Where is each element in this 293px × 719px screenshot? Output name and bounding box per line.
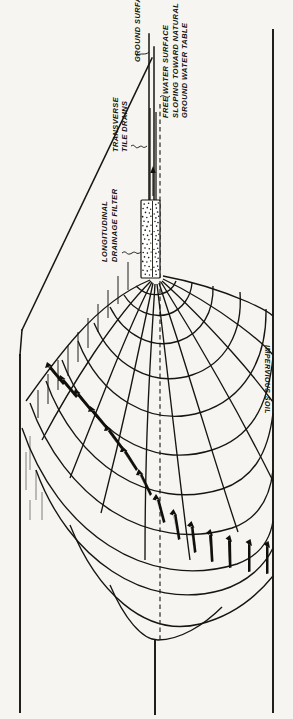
transverse-line1: TRANSVERSE [111,96,120,152]
equipotential-lines-group [22,281,273,640]
filter-line1: LONGITUDINAL [100,201,109,262]
seepage-arrow [246,539,253,572]
longitudinal-drainage-filter-block [141,200,160,278]
free-water-line1: FREE WATER SURFACE [161,24,170,118]
seepage-arrow [170,509,181,540]
flow-line-8 [161,282,273,481]
seepage-arrow [120,446,138,471]
seepage-arrow [226,535,233,568]
seepage-arrow [153,494,166,523]
free-water-line2: SLOPING TOWARD NATURAL [171,3,180,118]
equipotential-10 [36,470,273,595]
label-impervious-soil: IMPERVIOUS SOIL [264,345,271,414]
seepage-arrow [136,469,152,496]
filter-line2: DRAINAGE FILTER [110,188,119,262]
transverse-line2: TILE DRAINS [120,101,129,152]
labels-group: TRANSVERSE TILE DRAINS GROUND SURFACE LO… [100,0,271,414]
riser-flow-arrow-head [150,166,155,173]
embankment-crest-corner [20,330,22,355]
label-free-water-surface: FREE WATER SURFACE SLOPING TOWARD NATURA… [161,3,189,118]
seepage-flow-net-figure: TRANSVERSE TILE DRAINS GROUND SURFACE LO… [0,0,293,719]
flow-line-3 [70,282,152,478]
figure-canvas: TRANSVERSE TILE DRAINS GROUND SURFACE LO… [0,0,293,719]
flow-line-5 [145,284,155,560]
label-longitudinal-drainage-filter: LONGITUDINAL DRAINAGE FILTER [100,188,119,262]
ground-surface-text: GROUND SURFACE [133,0,142,62]
free-water-line3: GROUND WATER TABLE [180,22,189,118]
impervious-soil-text: IMPERVIOUS SOIL [264,345,271,414]
seepage-arrow [264,541,271,574]
drain-riser [150,108,156,200]
leader-drainage-filter [122,252,141,254]
label-ground-surface: GROUND SURFACE [133,0,142,62]
leader-transverse-tile-drains [131,145,147,148]
label-transverse-tile-drains: TRANSVERSE TILE DRAINS [111,96,129,152]
